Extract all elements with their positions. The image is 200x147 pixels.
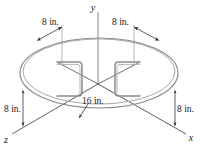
dimension-label-top-left: 8 in.	[42, 17, 59, 27]
axis-label-x: x	[188, 132, 194, 143]
left-rod-inner-path	[57, 64, 80, 93]
axis-label-z: z	[3, 134, 8, 145]
left-rod-outer-path	[57, 62, 82, 96]
x-axis-line	[98, 84, 186, 134]
dimension-label-bottom-left: 8 in.	[4, 104, 21, 114]
right-rod-outer-path	[115, 62, 140, 96]
origin-diagonal-back-left	[57, 62, 98, 84]
dimension-label-top-right: 8 in.	[112, 17, 129, 27]
right-bent-rod	[115, 62, 140, 96]
dimension-bottom-left: 8 in.	[4, 93, 23, 126]
dimension-label-center: 16 in.	[82, 96, 104, 106]
dim-line-top-right	[134, 27, 156, 39]
dim-leader-center	[79, 104, 88, 118]
dimension-bottom-right: 8 in.	[175, 93, 194, 126]
ring-inner-ellipse	[23, 39, 175, 104]
axis-label-y: y	[90, 2, 96, 13]
engineering-figure: 8 in. 8 in. 8 in. 8 in. 16 in. y z x	[0, 0, 200, 147]
figure-container: 8 in. 8 in. 8 in. 8 in. 16 in. y z x	[0, 0, 200, 147]
dim-line-top-left	[40, 27, 62, 39]
axis-group	[12, 12, 186, 134]
left-bent-rod	[57, 62, 82, 96]
right-rod-inner-path	[117, 64, 140, 93]
dimension-label-bottom-right: 8 in.	[177, 104, 194, 114]
dimension-top-left: 8 in.	[40, 17, 62, 39]
